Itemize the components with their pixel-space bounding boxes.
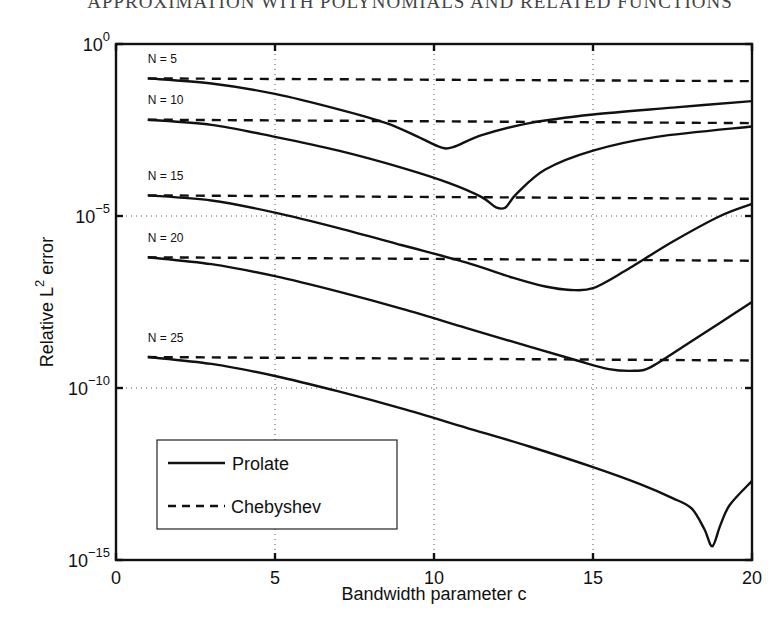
x-tick-label: 20 (742, 568, 762, 588)
prolate-line-n5 (148, 78, 752, 148)
x-tick-label: 5 (270, 568, 280, 588)
y-tick-label: 100 (83, 29, 110, 55)
chebyshev-line-n10 (148, 120, 752, 123)
chebyshev-line-n5 (148, 78, 752, 81)
y-tick-label: 10−5 (75, 201, 110, 227)
series-label: N = 15 (148, 169, 184, 183)
x-tick-label: 0 (111, 568, 121, 588)
legend: Prolate Chebyshev (157, 440, 397, 529)
legend-label-chebyshev: Chebyshev (231, 497, 321, 517)
chebyshev-line-n25 (148, 357, 752, 360)
y-tick-label: 10−10 (68, 373, 110, 399)
series-label: N = 10 (148, 93, 184, 107)
y-axis-title: Relative L2 error (32, 237, 57, 367)
prolate-line-n15 (148, 195, 752, 290)
prolate-line-n20 (148, 257, 752, 371)
chebyshev-line-n15 (148, 195, 752, 198)
x-axis-title: Bandwidth parameter c (341, 584, 526, 604)
x-tick-label: 15 (583, 568, 603, 588)
chart: N = 5N = 10N = 15N = 20N = 25 05101520 1… (0, 0, 783, 639)
series-label: N = 25 (148, 331, 184, 345)
prolate-line-n10 (148, 120, 752, 209)
y-tick-label: 10−15 (68, 545, 110, 571)
series-label: N = 20 (148, 231, 184, 245)
y-tick-labels: 10010−510−1010−15 (68, 29, 110, 571)
series-label: N = 5 (148, 52, 177, 66)
legend-label-prolate: Prolate (232, 454, 289, 474)
